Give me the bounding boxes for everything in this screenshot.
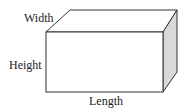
width-label: Width [24,12,54,24]
height-label: Height [9,59,42,71]
length-label: Length [89,95,123,107]
front-face [46,32,163,92]
top-face [46,10,177,32]
